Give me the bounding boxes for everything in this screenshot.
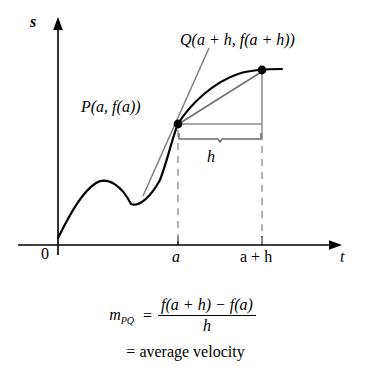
difference-quotient-fraction: f(a + h) − f(a) h bbox=[158, 296, 256, 336]
origin-label: 0 bbox=[41, 246, 49, 262]
point-marker-q bbox=[258, 66, 267, 75]
point-label-q: Q(a + h, f(a + h)) bbox=[180, 32, 295, 48]
y-axis-arrowhead bbox=[53, 17, 63, 30]
h-span-bracket bbox=[179, 133, 261, 142]
equals-sign: = bbox=[143, 307, 152, 325]
x-axis-label: t bbox=[340, 249, 344, 265]
h-interval-label: h bbox=[207, 149, 215, 165]
slope-symbol-subscript: PQ bbox=[121, 315, 134, 326]
formula-line-slope: mPQ = f(a + h) − f(a) h bbox=[0, 296, 365, 336]
calculus-secant-figure: s t 0 a a + h P(a, f(a)) Q(a + h, f(a + … bbox=[0, 0, 365, 377]
point-marker-p bbox=[174, 120, 183, 129]
formula-block: mPQ = f(a + h) − f(a) h =average velocit… bbox=[0, 296, 365, 361]
slope-symbol: mPQ bbox=[109, 306, 134, 326]
secant-line-p-to-q bbox=[177, 69, 266, 125]
tick-label-a: a bbox=[172, 249, 180, 265]
slope-symbol-base: m bbox=[109, 306, 121, 323]
fraction-numerator: f(a + h) − f(a) bbox=[158, 296, 256, 315]
tick-label-a-plus-h: a + h bbox=[240, 249, 272, 265]
fraction-denominator: h bbox=[200, 316, 214, 335]
position-curve bbox=[58, 69, 282, 238]
y-axis-label: s bbox=[30, 14, 36, 30]
point-label-p: P(a, f(a)) bbox=[81, 99, 141, 115]
formula-line-average-velocity: =average velocity bbox=[0, 343, 365, 361]
average-velocity-text: average velocity bbox=[139, 343, 244, 360]
equals-sign-second: = bbox=[126, 343, 135, 360]
